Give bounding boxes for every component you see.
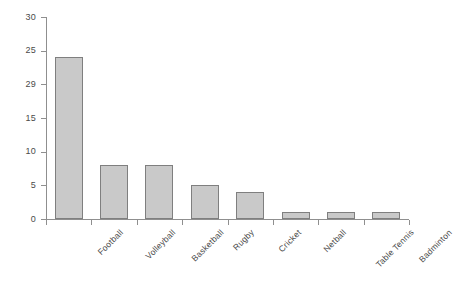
bar-cricket: [236, 192, 264, 219]
x-axis-tick: [409, 220, 410, 225]
bar-basketball: [145, 165, 173, 219]
x-axis-label-basketball: Basketball: [190, 228, 226, 264]
y-axis-tick-label: 30: [26, 13, 36, 22]
x-axis-label-football: Football: [97, 228, 126, 257]
bar-badminton: [372, 212, 400, 219]
bar-volleyball: [100, 165, 128, 219]
x-axis-label-volleyball: Volleyball: [144, 228, 177, 261]
x-axis-label-badminton: Badminton: [417, 228, 453, 264]
x-axis-tick: [273, 220, 274, 225]
y-axis-tick-label: 10: [26, 147, 36, 156]
y-axis-tick-label: 29: [26, 80, 36, 89]
x-axis-label-cricket: Cricket: [277, 228, 303, 254]
x-axis-tick: [318, 220, 319, 225]
x-axis-tick: [364, 220, 365, 225]
x-axis-label-table-tennis: Table Tennis: [374, 228, 415, 269]
x-axis-tick: [137, 220, 138, 225]
y-axis-tick-label: 25: [26, 46, 36, 55]
x-axis-tick: [182, 220, 183, 225]
x-axis-tick: [228, 220, 229, 225]
bar-rugby: [191, 185, 219, 219]
y-axis-tick-label: 15: [26, 114, 36, 123]
x-axis-tick: [91, 220, 92, 225]
plot-area: [46, 17, 409, 219]
y-axis-tick-label: 5: [31, 181, 36, 190]
x-axis-tick: [46, 220, 47, 225]
bar-netball: [282, 212, 310, 219]
y-axis-tick-label: 0: [31, 215, 36, 224]
bar-football: [55, 57, 83, 219]
bar-table-tennis: [327, 212, 355, 219]
x-axis-label-rugby: Rugby: [231, 228, 255, 252]
x-axis-label-netball: Netball: [322, 228, 348, 254]
